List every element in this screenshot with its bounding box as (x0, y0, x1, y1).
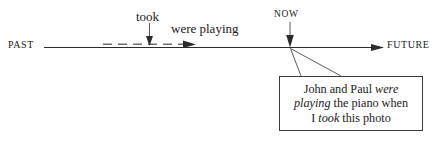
were-playing-event-label: were playing (171, 22, 239, 35)
callout-line3-italic: took (318, 111, 339, 125)
callout-leader-line-right (291, 49, 342, 77)
future-arrowhead-icon (371, 44, 384, 51)
past-endpoint-label: PAST (8, 40, 34, 50)
took-event-label: took (136, 10, 159, 23)
callout-line1-italic: were (375, 82, 398, 96)
example-sentence-callout-box: John and Paul were playing the piano whe… (279, 76, 423, 131)
future-endpoint-label: FUTURE (387, 40, 430, 50)
callout-line1-plain-a: John and Paul (304, 82, 375, 96)
now-marker-label: NOW (274, 10, 299, 20)
callout-line3-plain-b: this photo (339, 111, 390, 125)
were-playing-arrowhead-icon (183, 41, 196, 48)
callout-leader-line-left (291, 49, 302, 77)
callout-line2-plain: the piano when (331, 96, 409, 110)
example-sentence-text: John and Paul were playing the piano whe… (290, 82, 412, 126)
now-pointer-arrowhead-icon (286, 35, 294, 48)
timeline-diagram: PAST FUTURE NOW took were playing John a… (0, 0, 442, 147)
callout-line2-italic: playing (294, 96, 331, 110)
